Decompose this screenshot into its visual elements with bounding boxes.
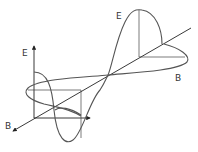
em-wave-diagram: E B E B (0, 0, 198, 152)
propagation-axis (13, 28, 191, 131)
e-axis-label: E (22, 48, 28, 58)
b-axis-label: B (5, 121, 11, 131)
right-projection-lines (139, 10, 185, 57)
magnetic-field-wave (26, 44, 188, 116)
b-right-label: B (175, 73, 181, 83)
e-top-label: E (116, 11, 122, 21)
